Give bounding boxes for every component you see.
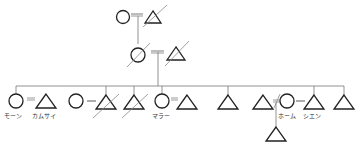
male-symbol bbox=[177, 95, 197, 109]
sibling-drop-lines bbox=[16, 86, 344, 95]
female-symbol bbox=[117, 11, 130, 24]
male-symbol bbox=[253, 95, 273, 109]
deceased-slash bbox=[93, 94, 119, 118]
kinship-diagram: モーン カムサイ マラー ホーム シエン bbox=[0, 0, 358, 148]
label-mara: マラー bbox=[152, 112, 170, 120]
female-symbol bbox=[9, 94, 23, 108]
female-symbol bbox=[280, 94, 294, 108]
divorce-slash bbox=[274, 94, 280, 108]
male-symbol bbox=[36, 94, 56, 108]
deceased-slash bbox=[165, 41, 189, 66]
label-sien: シエン bbox=[303, 112, 321, 120]
label-kamsai: カムサイ bbox=[32, 112, 56, 120]
male-symbol bbox=[218, 95, 238, 109]
generation-4 bbox=[266, 127, 286, 141]
label-moon: モーン bbox=[4, 112, 22, 120]
generation-1 bbox=[117, 5, 168, 44]
male-symbol bbox=[266, 127, 286, 141]
generation-2 bbox=[127, 41, 189, 86]
male-symbol bbox=[334, 95, 354, 109]
male-symbol bbox=[96, 95, 116, 109]
female-symbol bbox=[69, 94, 83, 108]
male-symbol bbox=[304, 95, 324, 109]
female-symbol bbox=[155, 94, 169, 108]
deceased-slash bbox=[143, 5, 167, 27]
male-symbol bbox=[167, 47, 185, 60]
label-hom: ホーム bbox=[278, 112, 296, 120]
generation-3 bbox=[9, 94, 354, 127]
